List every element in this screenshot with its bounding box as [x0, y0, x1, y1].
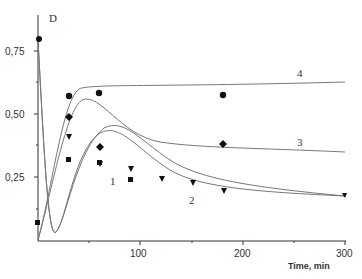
y-tick: 0,75 — [5, 46, 25, 57]
y-tick: 0,50 — [5, 109, 25, 120]
plot-area: D 0,75 0,50 0,25 100 200 300 Time, min 1… — [0, 0, 362, 279]
x-tick: 300 — [336, 248, 353, 259]
curve-label: 2 — [189, 194, 195, 206]
curve-label: 4 — [297, 67, 303, 79]
curve-label: 1 — [110, 175, 116, 187]
chart: D 0,75 0,50 0,25 100 200 300 Time, min 1… — [0, 0, 362, 279]
y-tick: 0,25 — [5, 172, 25, 183]
x-tick: 100 — [130, 248, 147, 259]
curve-label: 3 — [297, 136, 303, 148]
y-axis-label: D — [49, 12, 57, 24]
x-axis-label: Time, min — [288, 261, 330, 271]
x-tick: 200 — [234, 248, 251, 259]
